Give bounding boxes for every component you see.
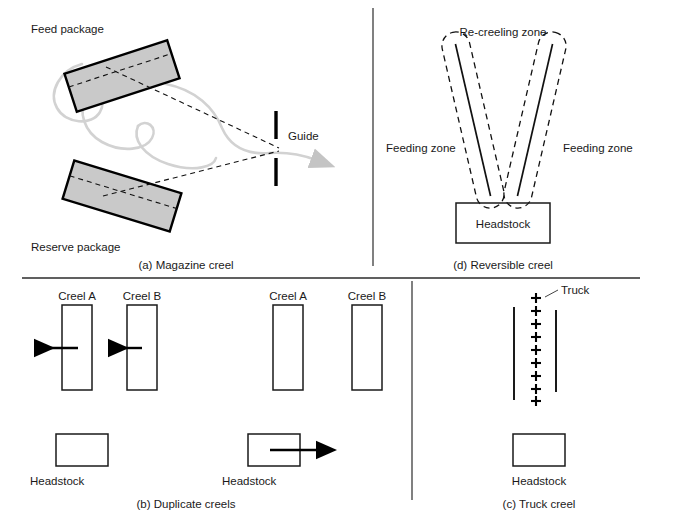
truck-mark [531, 306, 541, 316]
creel-types-figure: Feed package Reserve package Guide (a) M… [0, 0, 676, 526]
panel-b-duplicate-creels: Creel A Creel B Headstock Creel A Creel … [30, 290, 386, 510]
feed-package [64, 40, 179, 111]
truck-mark [531, 332, 541, 342]
feeding-zone-left-label: Feeding zone [386, 142, 456, 154]
truck-mark [531, 371, 541, 381]
zone-arm-left-core [455, 44, 490, 196]
reserve-package [63, 161, 182, 232]
feed-package-label: Feed package [31, 23, 104, 35]
creel-b-right-box [352, 305, 382, 390]
guide-label: Guide [288, 130, 319, 142]
feed-package-body [64, 40, 179, 111]
headstock-label-b-right: Headstock [222, 475, 277, 487]
headstock-box-b-left [56, 434, 108, 466]
feeding-zone-right-label: Feeding zone [563, 142, 633, 154]
truck-mark [531, 358, 541, 368]
headstock-label-c: Headstock [512, 475, 567, 487]
headstock-box-c [513, 434, 565, 466]
headstock-label-b-left: Headstock [30, 475, 85, 487]
truck-marks [531, 293, 541, 406]
truck-mark [531, 384, 541, 394]
truck-mark [531, 396, 541, 406]
panel-c-caption: (c) Truck creel [503, 498, 576, 510]
reserve-package-body [63, 161, 182, 232]
creel-b-left-label: Creel B [123, 290, 162, 302]
truck-leader-line [545, 290, 558, 297]
feed-line-lower [103, 151, 279, 196]
panel-a-caption: (a) Magazine creel [138, 259, 233, 271]
truck-mark [531, 345, 541, 355]
creel-a-right-box [273, 305, 303, 390]
panel-d-caption: (d) Reversible creel [453, 259, 553, 271]
panel-b-caption: (b) Duplicate creels [136, 498, 235, 510]
recreeling-zone-label: Re-creeling zone [460, 26, 547, 38]
truck-label: Truck [561, 284, 590, 296]
zone-arm-right [501, 29, 569, 211]
figure-canvas: Feed package Reserve package Guide (a) M… [0, 0, 676, 526]
zone-arm-right-core [517, 44, 552, 196]
creel-b-right-label: Creel B [348, 290, 387, 302]
truck-mark [531, 293, 541, 303]
yarn-path-to-guide [136, 126, 216, 168]
headstock-label-d: Headstock [476, 218, 531, 230]
yarn-path-feed-to-guide [166, 84, 270, 153]
truck-mark [531, 319, 541, 329]
creel-a-left-label: Creel A [58, 290, 96, 302]
zone-arm-left [439, 29, 507, 211]
panel-a-magazine-creel: Feed package Reserve package Guide (a) M… [31, 23, 319, 271]
panel-c-truck-creel: Truck Headstock (c) Truck creel [503, 284, 590, 510]
creel-a-right-label: Creel A [269, 290, 307, 302]
panel-d-reversible-creel: Headstock Re-creeling zone Feeding zone … [386, 26, 633, 271]
feed-line-upper [106, 67, 279, 148]
reserve-package-label: Reserve package [31, 241, 121, 253]
